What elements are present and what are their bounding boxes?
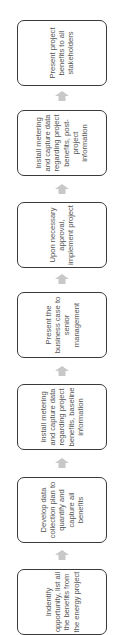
step-3-box: Install metering and capture data regard… <box>17 384 107 450</box>
step-5-label: Upon necessary approval, implement proje… <box>48 204 76 266</box>
step-6-box: Install metering and capture data regard… <box>17 110 107 176</box>
arrow-up-icon <box>55 458 69 468</box>
step-7-label: Present project benefits to all stakehol… <box>48 22 76 84</box>
step-2-label: Develop data collection plan to quantify… <box>39 479 85 541</box>
step-5-box: Upon necessary approval, implement proje… <box>17 202 107 268</box>
step-1-label: Indentify opportunity, list all the bene… <box>44 571 81 633</box>
step-3-label: Install metering and capture data regard… <box>39 386 85 448</box>
step-4-label: Present the business case to senior mana… <box>44 294 81 356</box>
step-4-box: Present the business case to senior mana… <box>17 292 107 358</box>
step-1-box: Indentify opportunity, list all the bene… <box>17 569 107 635</box>
arrow-up-icon <box>55 184 69 194</box>
arrow-up-icon <box>55 550 69 560</box>
step-7-box: Present project benefits to all stakehol… <box>17 20 107 86</box>
step-6-label: Install metering and capture data regard… <box>34 112 89 174</box>
arrow-up-icon <box>55 274 69 284</box>
arrow-up-icon <box>55 91 69 101</box>
arrow-up-icon <box>55 366 69 376</box>
step-2-box: Develop data collection plan to quantify… <box>17 477 107 543</box>
